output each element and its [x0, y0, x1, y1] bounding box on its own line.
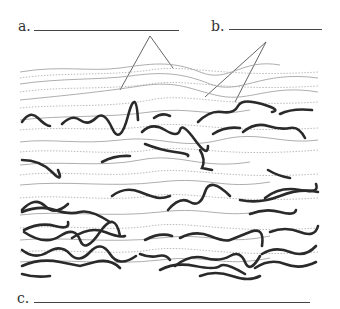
diagram-worksheet: a. b. c.	[0, 0, 340, 309]
thick-fibers	[22, 101, 318, 279]
dotted-fibers	[20, 68, 318, 253]
tissue-illustration	[0, 0, 340, 309]
leader-lines	[120, 36, 266, 102]
